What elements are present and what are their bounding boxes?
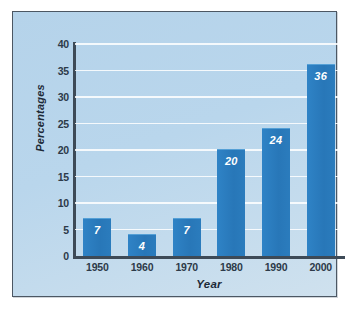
chart-frame: Percentages 0510152025303540 747202436 1… (12, 11, 337, 297)
page-canvas: Percentages 0510152025303540 747202436 1… (0, 0, 351, 311)
gridline (75, 70, 343, 72)
y-tick-label: 15 (58, 171, 69, 183)
bar-value-label: 7 (173, 224, 201, 236)
gridline (75, 43, 343, 45)
bar[interactable]: 24 (262, 128, 290, 256)
bar[interactable]: 7 (173, 218, 201, 256)
x-axis-title: Year (75, 278, 343, 290)
gridline (75, 202, 343, 204)
gridline (75, 96, 343, 98)
y-tick-label: 20 (58, 144, 69, 156)
gridline (75, 229, 343, 231)
bar-value-label: 24 (262, 134, 290, 146)
plot-area: 747202436 (75, 44, 343, 256)
bar[interactable]: 36 (307, 64, 335, 256)
bar[interactable]: 20 (217, 149, 245, 256)
bar[interactable]: 4 (128, 234, 156, 256)
gridline (75, 123, 343, 125)
y-tick-label: 10 (58, 197, 69, 209)
y-tick-label: 25 (58, 118, 69, 130)
y-tick-label: 5 (63, 224, 69, 236)
bar-value-label: 36 (307, 70, 335, 82)
bar-value-label: 20 (217, 155, 245, 167)
bar-value-label: 7 (83, 224, 111, 236)
x-tick-label: 2000 (309, 261, 332, 273)
x-axis-tick-labels: 195019601970198019902000 (75, 261, 343, 277)
y-tick-label: 40 (58, 38, 69, 50)
y-tick-label: 30 (58, 91, 69, 103)
gridline (75, 176, 343, 178)
gridline (75, 149, 343, 151)
bar-value-label: 4 (128, 240, 156, 252)
bar[interactable]: 7 (83, 218, 111, 256)
x-tick-label: 1950 (86, 261, 109, 273)
y-axis-tick-labels: 0510152025303540 (43, 44, 69, 256)
x-tick-label: 1960 (131, 261, 154, 273)
x-axis-line (73, 256, 345, 259)
y-tick-label: 0 (63, 250, 69, 262)
x-tick-label: 1970 (175, 261, 198, 273)
x-tick-label: 1990 (265, 261, 288, 273)
x-tick-label: 1980 (220, 261, 243, 273)
y-tick-label: 35 (58, 65, 69, 77)
